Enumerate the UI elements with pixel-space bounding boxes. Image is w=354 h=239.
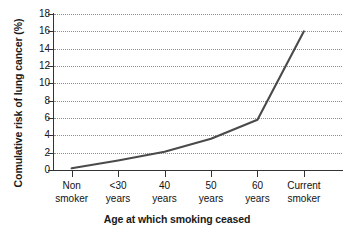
y-axis-title: Comulative risk of lung cancer (%): [12, 13, 24, 193]
y-tick-mark: [48, 135, 54, 136]
y-tick-label: 0: [28, 165, 50, 175]
y-tick-label: 16: [28, 26, 50, 36]
x-tick-mark: [165, 171, 166, 177]
y-tick-label: 12: [28, 61, 50, 71]
x-axis-line: [53, 170, 343, 171]
x-tick-mark: [118, 171, 119, 177]
y-tick-label: 18: [28, 9, 50, 19]
y-tick-mark: [48, 66, 54, 67]
y-tick-label: 14: [28, 44, 50, 54]
y-tick-label: 2: [28, 148, 50, 158]
y-tick-mark: [48, 49, 54, 50]
y-tick-mark: [48, 153, 54, 154]
y-tick-mark: [48, 101, 54, 102]
y-tick-mark: [48, 118, 54, 119]
y-tick-label: 6: [28, 113, 50, 123]
y-tick-mark: [48, 14, 54, 15]
risk-curve-line: [72, 31, 304, 168]
x-tick-mark: [304, 171, 305, 177]
x-tick-label-line1: Current: [273, 180, 335, 193]
x-tick-label: Currentsmoker: [273, 180, 335, 205]
y-tick-mark: [48, 31, 54, 32]
y-tick-mark: [48, 170, 54, 171]
x-axis-title: Age at which smoking ceased: [0, 213, 354, 225]
lung-cancer-risk-chart: Comulative risk of lung cancer (%) 02468…: [0, 0, 354, 239]
risk-curve-svg: [54, 14, 342, 170]
y-tick-label: 4: [28, 130, 50, 140]
x-axis-tick-labels: Nonsmoker<30years40years50years60yearsCu…: [0, 180, 354, 212]
y-tick-label: 8: [28, 96, 50, 106]
plot-area: [54, 14, 342, 170]
y-axis-line: [53, 13, 54, 171]
x-tick-label-line2: smoker: [273, 193, 335, 206]
x-tick-mark: [211, 171, 212, 177]
y-tick-label: 10: [28, 78, 50, 88]
x-tick-mark: [257, 171, 258, 177]
x-tick-mark: [72, 171, 73, 177]
y-tick-mark: [48, 83, 54, 84]
y-axis-tick-labels: 024681012141618: [28, 14, 50, 170]
